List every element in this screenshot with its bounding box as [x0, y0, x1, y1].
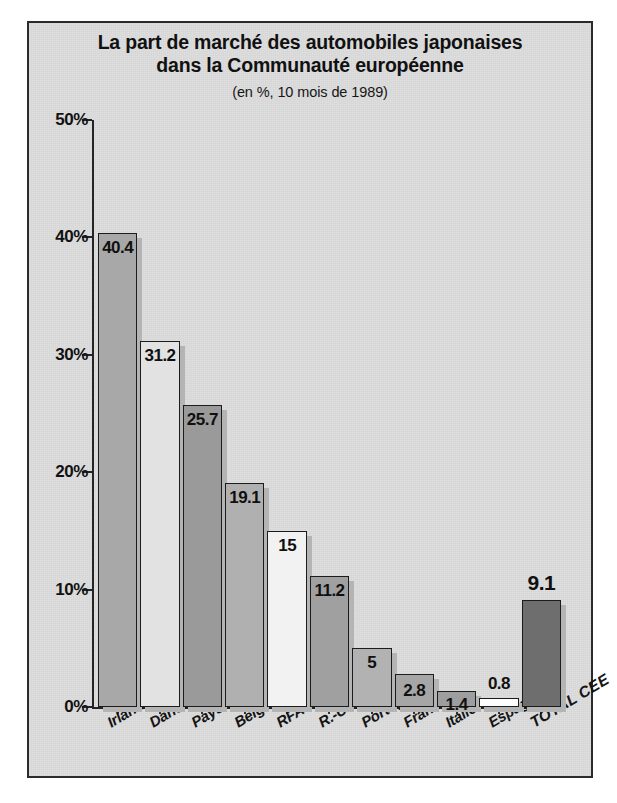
bar-rect[interactable] [479, 698, 518, 707]
plot-area: 50%40%30%20%10%0% 40.4Irlande31.2Danemar… [92, 120, 564, 707]
chart-title-block: La part de marché des automobiles japona… [29, 31, 591, 102]
chart-subtitle: (en %, 10 mois de 1989) [29, 82, 591, 102]
bar-value-label: 15 [267, 536, 306, 556]
bar-group[interactable]: 2.8France [395, 674, 434, 707]
bar-value-label: 2.8 [395, 681, 434, 701]
y-axis-tick-label: 50% [55, 110, 88, 130]
chart-title-line-1: La part de marché des automobiles japona… [29, 31, 591, 54]
bar-value-label: 0.8 [479, 674, 518, 694]
bar-value-label: 1.4 [437, 695, 476, 715]
bar-value-label: 9.1 [522, 571, 561, 595]
bar-group[interactable]: 1.4Italie [437, 691, 476, 707]
chart-plate: La part de marché des automobiles japona… [27, 21, 593, 778]
bar-rect[interactable] [522, 600, 561, 707]
bar-group[interactable]: 9.1TOTAL CEE [522, 600, 561, 707]
y-axis-tick-label: 0% [64, 697, 88, 717]
bar-value-label: 25.7 [183, 410, 222, 430]
bar-value-label: 5 [352, 653, 391, 673]
y-axis-tick-label: 40% [55, 227, 88, 247]
bar-group[interactable]: 5Portugal [352, 648, 391, 707]
bar-rect[interactable] [225, 483, 264, 707]
bar-value-label: 40.4 [98, 238, 137, 258]
bar-rect[interactable] [183, 405, 222, 707]
bar-value-label: 19.1 [225, 488, 264, 508]
bar-group[interactable]: 15RFA [267, 531, 306, 707]
bar-group[interactable]: 40.4Irlande [98, 233, 137, 707]
y-axis-tick-label: 30% [55, 345, 88, 365]
bar-series: 40.4Irlande31.2Danemark25.7Pays-Bas19.1B… [94, 120, 564, 707]
bar-rect[interactable] [98, 233, 137, 707]
bar-rect[interactable] [267, 531, 306, 707]
bar-rect[interactable] [140, 341, 179, 707]
bar-group[interactable]: 19.1Belg.-Lux. [225, 483, 264, 707]
y-axis-tick-label: 10% [55, 580, 88, 600]
chart-title-line-2: dans la Communauté européenne [29, 54, 591, 77]
bar-group[interactable]: 31.2Danemark [140, 341, 179, 707]
bar-value-label: 31.2 [140, 346, 179, 366]
bar-group[interactable]: 25.7Pays-Bas [183, 405, 222, 707]
bar-group[interactable]: 0.8Espagne [479, 697, 518, 707]
y-axis-tick-label: 20% [55, 462, 88, 482]
bar-group[interactable]: 11.2R.-U. [310, 576, 349, 707]
bar-value-label: 11.2 [310, 581, 349, 601]
